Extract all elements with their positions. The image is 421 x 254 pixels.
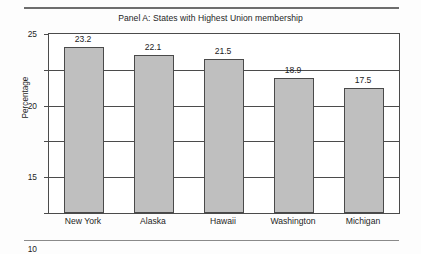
figure: Panel A: States with Highest Union membe… [0,0,421,254]
plot-area: 0510152025 [48,33,400,214]
y-axis-tick: 0 [44,213,49,214]
y-axis-tick: 15 [44,106,49,107]
bar-value-label: 23.2 [48,35,118,44]
y-axis-tick-label: 20 [28,101,37,109]
y-axis-tick: 10 [44,141,49,142]
x-axis-category-label: Michigan [328,217,398,226]
x-axis-category-label: Washington [258,217,328,226]
bar-value-label: 21.5 [188,47,258,56]
x-axis-category-label: Hawaii [188,217,258,226]
bottom-divider-rule [24,240,399,241]
y-axis-tick: 20 [44,70,49,71]
bar-value-label: 22.1 [118,43,188,52]
bar-value-label: 18.9 [258,66,328,75]
top-divider-rule [24,7,399,9]
y-axis-tick-label: 10 [28,245,37,253]
y-axis-tick: 5 [44,177,49,178]
y-axis-tick-label: 15 [28,173,37,181]
y-axis-tick-label: 25 [28,30,37,38]
bar [204,59,243,213]
x-axis-category-label: Alaska [118,217,188,226]
y-axis-title: Percentage [21,68,30,128]
chart-title: Panel A: States with Highest Union membe… [0,13,421,23]
x-axis-category-label: New York [48,217,118,226]
bar-value-label: 17.5 [328,76,398,85]
bar [344,88,383,213]
bar [274,78,313,213]
bar [64,47,103,213]
bar [134,55,173,213]
